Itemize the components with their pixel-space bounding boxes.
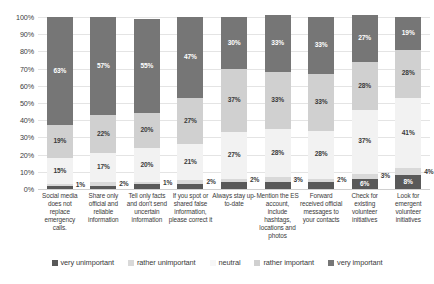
bar-column: 2%1%15%19%63% xyxy=(47,17,73,189)
y-axis-tick: 80% xyxy=(20,47,34,56)
bar-segment-label: 28% xyxy=(358,83,371,90)
bar-segment-label: 1% xyxy=(163,180,172,187)
bar-segment-label: 37% xyxy=(358,138,371,145)
bar-segment: 22% xyxy=(90,115,116,153)
bar-segment-label: 57% xyxy=(97,63,110,70)
bar-segment: 2% xyxy=(221,179,247,182)
bar-column: 4%3%28%33%33% xyxy=(265,17,291,189)
x-axis-category-label: Check for existing volunteer initiatives xyxy=(343,192,387,224)
bar-segment: 55% xyxy=(134,19,160,114)
bar-segment-label: 28% xyxy=(271,150,284,157)
bar-segment: 33% xyxy=(265,72,291,129)
legend-item[interactable]: rather unimportant xyxy=(128,258,196,267)
bar-segment-label: 20% xyxy=(141,127,154,134)
legend-label: very unimportant xyxy=(61,258,114,267)
bar-segment-label: 19% xyxy=(53,138,66,145)
bar-segment: 37% xyxy=(221,69,247,133)
bar-segment: 15% xyxy=(47,158,73,184)
bar-column: 8%4%41%28%19% xyxy=(395,17,421,189)
bar-segment-label: 27% xyxy=(358,35,371,42)
legend-label: rather important xyxy=(263,258,314,267)
bar-segment: 57% xyxy=(90,17,116,115)
bar-column: 3%1%20%20%55% xyxy=(134,17,160,189)
y-axis-tick: 20% xyxy=(20,150,34,159)
bar-segment-label: 63% xyxy=(53,68,66,75)
bar-segment: 28% xyxy=(265,129,291,177)
bar-segment: 21% xyxy=(177,144,203,180)
bar-segment-label: 33% xyxy=(271,40,284,47)
bar-segment: 41% xyxy=(395,98,421,169)
stacked-bar-chart: 0%10%20%30%40%50%60%70%80%90%100% 2%1%15… xyxy=(0,0,434,284)
x-axis-category-label: Tell only facts and don't send uncertain… xyxy=(125,192,169,224)
bar-column: 2%2%17%22%57% xyxy=(90,17,116,189)
bar-segment: 1% xyxy=(47,184,73,186)
legend-swatch-icon xyxy=(128,260,134,266)
bars-layer: 2%1%15%19%63%2%2%17%22%57%3%1%20%20%55%3… xyxy=(38,17,430,189)
bar-segment-label: 2% xyxy=(337,177,346,184)
bar-segment-label: 2% xyxy=(250,177,259,184)
bar-segment: 2% xyxy=(47,186,73,189)
y-axis-tick: 40% xyxy=(20,116,34,125)
bar-segment-label: 4% xyxy=(424,169,433,176)
x-axis-category-label: Share only official and reliable informa… xyxy=(81,192,125,224)
bar-segment: 4% xyxy=(265,182,291,189)
bar-segment: 2% xyxy=(90,186,116,189)
legend-label: very important xyxy=(337,258,382,267)
legend-swatch-icon xyxy=(254,260,260,266)
bar-column: 3%2%21%27%47% xyxy=(177,17,203,189)
bar-segment: 4% xyxy=(308,182,334,189)
legend-item[interactable]: very unimportant xyxy=(52,258,114,267)
bar-segment-label: 22% xyxy=(97,131,110,138)
bar-segment: 2% xyxy=(308,179,334,182)
bar-segment-label: 3% xyxy=(294,176,303,183)
bar-segment: 3% xyxy=(352,174,378,179)
bar-segment-label: 21% xyxy=(184,159,197,166)
bar-segment: 27% xyxy=(221,132,247,178)
legend-label: rather unimportant xyxy=(137,258,196,267)
x-axis-category-label: Forward received official messages to yo… xyxy=(299,192,343,224)
bar-segment-label: 3% xyxy=(381,173,390,180)
legend-swatch-icon xyxy=(328,260,334,266)
bar-column: 4%2%27%37%30% xyxy=(221,17,247,189)
x-axis-category-label: Look for emergent volunteer initiatives xyxy=(386,192,430,224)
grid-line xyxy=(38,189,430,190)
bar-segment: 3% xyxy=(177,184,203,189)
bar-segment-label: 47% xyxy=(184,54,197,61)
bar-segment: 19% xyxy=(395,17,421,50)
bar-segment: 3% xyxy=(134,184,160,189)
y-axis-tick: 70% xyxy=(20,64,34,73)
legend-label: neutral xyxy=(219,258,241,267)
y-axis-tick: 50% xyxy=(20,99,34,108)
bar-segment-label: 28% xyxy=(402,70,415,77)
y-axis-tick: 0% xyxy=(24,185,34,194)
bar-segment: 47% xyxy=(177,17,203,98)
legend-item[interactable]: rather important xyxy=(254,258,314,267)
bar-segment: 4% xyxy=(221,182,247,189)
x-axis-category-label: Social media does not replace emergency … xyxy=(38,192,82,232)
bar-segment-label: 33% xyxy=(315,99,328,106)
bar-segment: 3% xyxy=(265,177,291,182)
bar-segment-label: 1% xyxy=(76,181,85,188)
bar-segment: 6% xyxy=(352,179,378,189)
bar-segment-label: 28% xyxy=(315,151,328,158)
y-axis-tick: 60% xyxy=(20,81,34,90)
x-axis-category-label: Mention the ES account, include hashtags… xyxy=(256,192,300,241)
bar-segment-label: 33% xyxy=(315,42,328,49)
bar-segment: 17% xyxy=(90,153,116,182)
bar-segment: 1% xyxy=(134,182,160,184)
bar-segment-label: 17% xyxy=(97,164,110,171)
bar-segment: 27% xyxy=(177,98,203,144)
x-axis-category-label: If you spot or shared false information,… xyxy=(168,192,212,224)
bar-segment-label: 15% xyxy=(53,168,66,175)
legend-swatch-icon xyxy=(210,260,216,266)
legend-item[interactable]: neutral xyxy=(210,258,241,267)
bar-segment-label: 55% xyxy=(141,63,154,70)
x-axis-categories: Social media does not replace emergency … xyxy=(38,192,430,250)
legend-item[interactable]: very important xyxy=(328,258,382,267)
bar-segment: 4% xyxy=(395,168,421,175)
bar-segment: 20% xyxy=(134,113,160,147)
bar-segment-label: 19% xyxy=(402,30,415,37)
y-axis: 0%10%20%30%40%50%60%70%80%90%100% xyxy=(0,17,34,189)
bar-segment-label: 41% xyxy=(402,130,415,137)
bar-segment: 20% xyxy=(134,148,160,182)
